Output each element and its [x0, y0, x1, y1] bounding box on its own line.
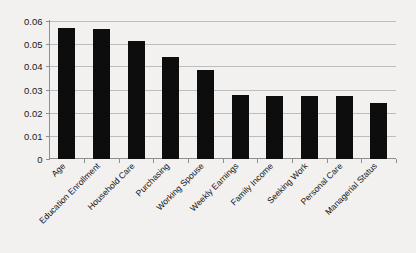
bar	[232, 95, 249, 159]
bar	[336, 96, 353, 159]
y-tick-label: 0.04	[24, 61, 43, 72]
y-tick-label: 0.02	[24, 108, 43, 119]
bar	[162, 57, 179, 159]
bar	[58, 28, 75, 159]
y-tick-label: 0.01	[24, 131, 43, 142]
bar	[93, 29, 110, 159]
bar-chart: 0.060.050.040.030.020.010 AgeEducation E…	[0, 0, 416, 253]
bar	[197, 70, 214, 159]
chart-canvas: 0.060.050.040.030.020.010 AgeEducation E…	[0, 0, 416, 253]
y-tick-label: 0.03	[24, 85, 43, 96]
y-tick-label: 0	[37, 154, 42, 165]
y-tick-label: 0.06	[24, 16, 43, 27]
bar	[370, 103, 387, 159]
bar	[266, 96, 283, 159]
bar	[301, 96, 318, 159]
bar	[128, 41, 145, 159]
y-tick-label: 0.05	[24, 39, 43, 50]
